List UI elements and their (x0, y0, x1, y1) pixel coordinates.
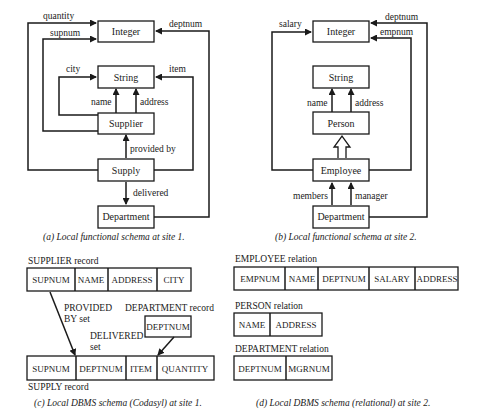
svg-text:city: city (66, 64, 80, 74)
svg-text:Supply: Supply (112, 165, 140, 176)
svg-text:ADDRESS: ADDRESS (111, 275, 152, 285)
panel-b-functional-schema-site2: Integer String Person Employee Departmen… (272, 12, 427, 243)
svg-text:empnum: empnum (380, 27, 414, 37)
caption-d: (d) Local DBMS schema (relational) at si… (256, 398, 430, 409)
svg-text:CITY: CITY (164, 275, 185, 285)
quantity-edge (28, 23, 98, 170)
svg-text:Integer: Integer (327, 26, 356, 37)
supply-record: SUPNUM DEPTNUM ITEM QUANTITY (27, 356, 214, 380)
svg-text:DEPTNUM: DEPTNUM (322, 274, 366, 284)
svg-text:deptnum: deptnum (385, 12, 419, 22)
svg-text:ADDRESS: ADDRESS (275, 320, 316, 330)
svg-text:SALARY: SALARY (374, 274, 410, 284)
panel-d-relational-schema-site2: EMPLOYEE relation EMPNUM NAME DEPTNUM SA… (234, 254, 458, 409)
isa-arrow-icon (334, 136, 350, 158)
panel-a-functional-schema-site1: Integer String Supplier Supply Departmen… (28, 11, 209, 243)
delivered-set-arrow (158, 337, 174, 355)
svg-text:Supplier: Supplier (109, 118, 144, 129)
svg-text:DEPTNUM: DEPTNUM (146, 322, 190, 332)
svg-text:BY set: BY set (64, 314, 90, 324)
svg-text:Department: Department (102, 211, 149, 222)
city-edge (59, 77, 98, 115)
department-record: DEPTNUM (145, 316, 191, 337)
caption-a: (a) Local functional schema at site 1. (43, 232, 185, 243)
deptnum-edge (369, 23, 427, 217)
svg-text:NAME: NAME (78, 275, 105, 285)
svg-text:supnum: supnum (50, 28, 81, 38)
svg-text:members: members (293, 191, 328, 201)
svg-text:MGRNUM: MGRNUM (288, 364, 330, 374)
svg-text:String: String (329, 72, 353, 83)
svg-text:provided by: provided by (130, 144, 176, 154)
item-edge (154, 77, 193, 170)
svg-text:address: address (140, 97, 169, 107)
caption-c: (c) Local DBMS schema (Codasyl) at site … (34, 398, 202, 409)
svg-text:PROVIDED: PROVIDED (64, 303, 112, 313)
svg-text:DEPTNUM: DEPTNUM (238, 364, 282, 374)
svg-text:QUANTITY: QUANTITY (162, 364, 209, 374)
svg-text:SUPPLY record: SUPPLY record (28, 382, 89, 392)
panel-c-codasyl-schema-site1: SUPPLIER record SUPNUM NAME ADDRESS CITY… (27, 256, 214, 409)
svg-text:NAME: NAME (289, 274, 316, 284)
svg-text:DELIVERED: DELIVERED (90, 331, 143, 341)
svg-text:quantity: quantity (43, 11, 74, 21)
svg-text:address: address (355, 98, 384, 108)
svg-text:item: item (169, 64, 186, 74)
person-relation: NAME ADDRESS (234, 313, 322, 336)
svg-text:name: name (91, 97, 112, 107)
svg-text:Integer: Integer (112, 26, 141, 37)
department-relation: DEPTNUM MGRNUM (234, 356, 332, 380)
schema-figure: Integer String Supplier Supply Departmen… (0, 0, 493, 417)
svg-text:ITEM: ITEM (130, 364, 152, 374)
svg-text:PERSON relation: PERSON relation (235, 301, 303, 311)
svg-text:NAME: NAME (239, 320, 266, 330)
supnum-edge (43, 39, 98, 131)
svg-text:DEPARTMENT relation: DEPARTMENT relation (235, 344, 329, 354)
svg-text:SUPPLIER record: SUPPLIER record (28, 256, 99, 266)
svg-text:ADDRESS: ADDRESS (416, 274, 457, 284)
svg-text:name: name (307, 98, 328, 108)
caption-b: (b) Local functional schema at site 2. (275, 232, 417, 243)
svg-text:SUPNUM: SUPNUM (32, 275, 70, 285)
svg-text:Department: Department (317, 211, 364, 222)
svg-text:String: String (114, 72, 138, 83)
svg-text:deptnum: deptnum (169, 19, 203, 29)
svg-text:Person: Person (327, 118, 354, 129)
svg-text:salary: salary (279, 19, 302, 29)
svg-text:delivered: delivered (133, 188, 169, 198)
svg-text:EMPNUM: EMPNUM (240, 274, 280, 284)
svg-text:DEPARTMENT record: DEPARTMENT record (125, 303, 214, 313)
svg-text:manager: manager (355, 191, 389, 201)
svg-text:SUPNUM: SUPNUM (32, 364, 70, 374)
svg-text:Employee: Employee (321, 165, 362, 176)
employee-relation: EMPNUM NAME DEPTNUM SALARY ADDRESS (234, 267, 458, 290)
supplier-record: SUPNUM NAME ADDRESS CITY (27, 268, 191, 291)
svg-text:EMPLOYEE relation: EMPLOYEE relation (235, 254, 317, 264)
svg-text:set: set (90, 342, 101, 352)
svg-text:DEPTNUM: DEPTNUM (79, 364, 123, 374)
